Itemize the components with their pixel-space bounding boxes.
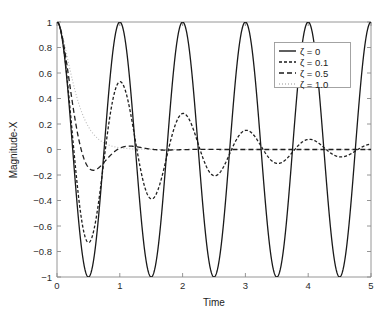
legend-label-zeta-1-0: ζ = 1.0 (300, 79, 328, 90)
y-tick-label: 1 (47, 17, 52, 28)
y-tick-label: −0.4 (33, 195, 52, 206)
legend-label-zeta-0-1: ζ = 0.1 (300, 57, 328, 68)
x-tick-label: 4 (306, 280, 311, 291)
x-tick-label: 3 (243, 280, 248, 291)
y-tick-label: 0 (47, 144, 52, 155)
y-tick-label: 0.4 (39, 93, 52, 104)
legend-label-zeta-0-5: ζ = 0.5 (300, 68, 328, 79)
y-tick-label: −0.6 (33, 221, 52, 232)
x-tick-label: 1 (117, 280, 122, 291)
x-axis-title: Time (203, 297, 225, 308)
legend[interactable]: ζ = 0 ζ = 0.1 ζ = 0.5 ζ = 1.0 (275, 43, 351, 90)
x-tick-label: 2 (180, 280, 185, 291)
x-tick-label: 0 (54, 280, 59, 291)
legend-label-zeta-0: ζ = 0 (300, 46, 320, 57)
figure-canvas: 1 0.8 0.6 0.4 0.2 0 −0.2 −0.4 −0.6 −0.8 … (0, 0, 388, 319)
y-tick-label: 0.8 (39, 42, 52, 53)
x-axis-tick-labels: 0 1 2 3 4 5 (54, 280, 373, 291)
y-tick-label: 0.6 (39, 68, 52, 79)
y-axis-title: Magnitude-X (8, 121, 19, 178)
y-tick-label: −0.8 (33, 246, 52, 257)
y-tick-label: −0.2 (33, 170, 52, 181)
y-tick-label: −1 (41, 272, 52, 283)
x-tick-label: 5 (368, 280, 373, 291)
y-tick-label: 0.2 (39, 119, 52, 130)
damped-oscillation-chart: 1 0.8 0.6 0.4 0.2 0 −0.2 −0.4 −0.6 −0.8 … (0, 0, 388, 319)
y-axis-tick-labels: 1 0.8 0.6 0.4 0.2 0 −0.2 −0.4 −0.6 −0.8 … (33, 17, 52, 283)
